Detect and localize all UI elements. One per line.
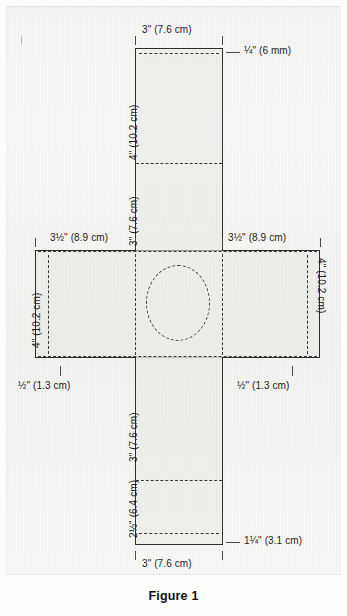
leader-top-width-left [135,36,136,45]
leader-three-half-right-outer [320,238,321,247]
dimension-middle-right-width: 3½" (8.9 cm) [228,232,286,243]
dimension-top-panel-height: 4" (10.2 cm) [128,105,139,160]
pattern-panel-top [135,48,223,251]
leader-top-width-right [222,36,223,45]
dimension-upper-center-height: 3" (7.6 cm) [128,196,139,246]
fold-line-top-hem [139,53,219,54]
fold-line-top-crease [136,163,222,164]
dimension-bottom-panel-height: 2½" (6.4 cm) [128,480,139,538]
fold-line-center-left [135,254,136,355]
dimension-middle-right-height: 4" (10.2 cm) [316,258,327,313]
fold-line-middle-lower [38,356,317,357]
dimension-middle-left-width: 3½" (8.9 cm) [50,232,108,243]
fold-line-left-seam [48,255,49,354]
registration-tick-mark [21,36,22,45]
dimension-top-panel-width: 3" (7.6 cm) [142,24,192,35]
fold-line-bottom-crease [136,480,222,481]
fold-line-bottom-hem [139,533,219,534]
leader-half-inch-left [60,366,61,376]
dimension-bottom-hem-allowance: 1¼" (3.1 cm) [244,535,302,546]
pattern-panel-bottom [135,357,223,545]
figure-page: 3" (7.6 cm) ¼" (6 mm) 4" (10.2 cm) 3" (7… [0,0,347,616]
leader-bottom-width-right [222,551,223,560]
dimension-middle-left-height: 4" (10.2 cm) [31,293,42,348]
fold-line-center-right [222,254,223,355]
dimension-top-hem-allowance: ¼" (6 mm) [244,45,291,56]
dimension-lower-center-height: 3" (7.6 cm) [128,412,139,462]
leader-half-inch-right [292,366,293,376]
leader-bottom-width-left [135,551,136,560]
leader-three-half-right-inner [222,238,223,247]
dimension-seam-left: ½" (1.3 cm) [18,380,70,391]
fold-line-middle-upper [38,251,317,252]
dimension-seam-right: ½" (1.3 cm) [237,380,289,391]
leader-one-and-quarter-inch [226,542,240,543]
dimension-bottom-panel-width: 3" (7.6 cm) [142,558,192,569]
leader-three-half-left-outer [35,238,36,247]
figure-caption: Figure 1 [0,589,347,603]
center-opening-ellipse [146,265,210,341]
paper-edge-top [6,6,341,7]
leader-quarter-inch [226,52,240,53]
paper-edge-bottom [6,574,341,575]
fold-line-right-seam [307,255,308,354]
